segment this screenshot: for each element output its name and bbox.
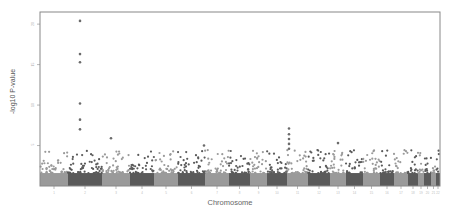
svg-text:9: 9 [258, 191, 260, 195]
significant-point [203, 144, 206, 147]
x-axis-label: Chromosome [0, 198, 460, 207]
chromosome-band [40, 173, 68, 186]
svg-text:10: 10 [31, 103, 35, 107]
significant-point [79, 102, 82, 105]
chromosome-band [394, 173, 408, 186]
svg-text:2: 2 [84, 191, 86, 195]
chromosome-band [363, 173, 380, 186]
y-axis-label: -log10 P-value [9, 62, 16, 122]
chromosome-band [436, 173, 440, 186]
chromosome-band [287, 173, 308, 186]
chromosome-bands [40, 173, 440, 186]
svg-text:3: 3 [115, 191, 117, 195]
svg-text:4: 4 [141, 191, 143, 195]
significant-point [288, 133, 291, 136]
chromosome-band [308, 173, 330, 186]
chromosome-band [267, 173, 287, 186]
chromosome-band [102, 173, 130, 186]
significant-point [79, 61, 82, 64]
svg-text:1: 1 [53, 191, 55, 195]
chromosome-band [330, 173, 346, 186]
chromosome-band [431, 173, 436, 186]
significant-point [337, 142, 340, 145]
svg-text:22: 22 [436, 191, 440, 195]
chromosome-band [408, 173, 418, 186]
svg-text:7: 7 [216, 191, 218, 195]
svg-text:10: 10 [275, 191, 279, 195]
y-axis-ticks: 5101520 [31, 22, 40, 145]
significant-point [79, 53, 82, 56]
significant-point [288, 138, 291, 141]
significant-point [110, 137, 113, 140]
svg-text:19: 19 [419, 191, 423, 195]
chromosome-band [424, 173, 431, 186]
svg-text:20: 20 [426, 191, 430, 195]
svg-text:5: 5 [165, 191, 167, 195]
chromosome-band [205, 173, 229, 186]
svg-text:6: 6 [191, 191, 193, 195]
svg-text:16: 16 [385, 191, 389, 195]
significant-point [79, 118, 82, 121]
significant-point [288, 143, 291, 146]
data-points [40, 20, 440, 175]
significant-point [288, 127, 291, 130]
plot-frame [40, 12, 440, 186]
svg-text:17: 17 [399, 191, 403, 195]
chromosome-band [250, 173, 267, 186]
chromosome-band [229, 173, 250, 186]
significant-point [79, 128, 82, 131]
chromosome-band [178, 173, 205, 186]
chromosome-band [154, 173, 178, 186]
chromosome-band [130, 173, 154, 186]
chromosome-band [380, 173, 394, 186]
svg-text:18: 18 [411, 191, 415, 195]
x-axis-ticks: 12345678910111213141516171819202122 [53, 186, 440, 195]
manhattan-plot: 5101520 12345678910111213141516171819202… [0, 0, 460, 218]
svg-text:20: 20 [31, 22, 35, 26]
chromosome-band [346, 173, 363, 186]
svg-text:11: 11 [296, 191, 299, 195]
chromosome-band [418, 173, 424, 186]
significant-point [79, 20, 82, 23]
svg-text:14: 14 [353, 191, 357, 195]
svg-text:5: 5 [31, 143, 35, 145]
svg-text:15: 15 [31, 63, 35, 67]
svg-text:15: 15 [370, 191, 374, 195]
svg-text:21: 21 [432, 191, 436, 195]
significant-point [288, 147, 291, 150]
svg-text:12: 12 [317, 191, 321, 195]
chromosome-band [68, 173, 102, 186]
svg-text:8: 8 [239, 191, 241, 195]
svg-text:13: 13 [336, 191, 340, 195]
